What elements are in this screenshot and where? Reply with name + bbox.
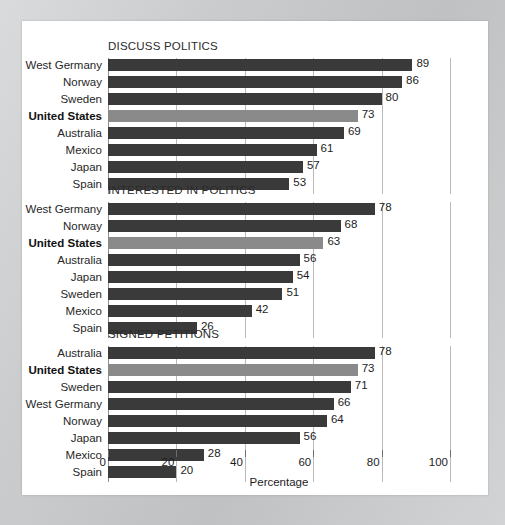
panel-title: INTERESTED IN POLITICS <box>108 184 256 196</box>
category-label: Japan <box>22 160 102 175</box>
bar <box>108 381 351 393</box>
category-label: Sweden <box>22 287 102 302</box>
category-label: West Germany <box>22 58 102 73</box>
gridline <box>450 202 451 338</box>
bar-row: 42 <box>108 304 450 319</box>
chart-card: DISCUSS POLITICSWest GermanyNorwaySweden… <box>22 21 488 495</box>
bar-value-label: 56 <box>304 430 317 442</box>
bar <box>108 398 334 410</box>
bar <box>108 364 358 376</box>
x-axis-tick-label: 100 <box>429 456 450 468</box>
panel-plot-area: 7868635654514226 <box>108 202 450 338</box>
bar <box>108 305 252 317</box>
bar-row: 66 <box>108 397 450 412</box>
bar-value-label: 42 <box>256 303 269 315</box>
bar <box>108 110 358 122</box>
x-axis-tick <box>313 450 314 457</box>
bar-row: 86 <box>108 75 450 90</box>
bar-value-label: 66 <box>338 396 351 408</box>
bar <box>108 76 402 88</box>
category-label: Japan <box>22 270 102 285</box>
bar <box>108 271 293 283</box>
bar <box>108 127 344 139</box>
bar <box>108 347 375 359</box>
category-label: United States <box>22 236 102 251</box>
bar-row: 78 <box>108 346 450 361</box>
bar-value-label: 78 <box>379 201 392 213</box>
bar-row: 63 <box>108 236 450 251</box>
bar-chart: DISCUSS POLITICSWest GermanyNorwaySweden… <box>22 21 488 495</box>
bar-value-label: 73 <box>362 362 375 374</box>
bar-row: 68 <box>108 219 450 234</box>
bar <box>108 237 323 249</box>
x-axis-tick <box>382 450 383 457</box>
panel-title: DISCUSS POLITICS <box>108 40 218 52</box>
x-axis-tick-label: 0 <box>100 456 108 468</box>
category-label: West Germany <box>22 397 102 412</box>
category-labels: AustraliaUnited StatesSwedenWest Germany… <box>22 346 102 482</box>
x-axis-title: Percentage <box>108 476 450 488</box>
x-axis-tick-label: 20 <box>162 456 177 468</box>
bar <box>108 203 375 215</box>
category-label: Australia <box>22 346 102 361</box>
bar-value-label: 57 <box>307 159 320 171</box>
bar-value-label: 73 <box>362 108 375 120</box>
bar-row: 56 <box>108 431 450 446</box>
bar-value-label: 78 <box>379 345 392 357</box>
x-axis-tick-label: 40 <box>230 456 245 468</box>
category-label: Spain <box>22 321 102 336</box>
category-label: Sweden <box>22 92 102 107</box>
x-axis: Percentage 020406080100 <box>108 450 450 494</box>
category-label: Norway <box>22 75 102 90</box>
bar-row: 73 <box>108 109 450 124</box>
category-label: Mexico <box>22 304 102 319</box>
category-label: Mexico <box>22 143 102 158</box>
category-label: Japan <box>22 431 102 446</box>
x-axis-tick-label: 60 <box>298 456 313 468</box>
bar-value-label: 89 <box>416 57 429 69</box>
bar <box>108 59 412 71</box>
category-label: Australia <box>22 126 102 141</box>
x-axis-tick <box>450 450 451 457</box>
bar-row: 56 <box>108 253 450 268</box>
bar <box>108 432 300 444</box>
category-label: Sweden <box>22 380 102 395</box>
bar-value-label: 63 <box>327 235 340 247</box>
category-label: West Germany <box>22 202 102 217</box>
x-axis-tick-label: 80 <box>367 456 382 468</box>
bar <box>108 161 303 173</box>
bar <box>108 144 317 156</box>
category-label: United States <box>22 109 102 124</box>
category-label: Mexico <box>22 448 102 463</box>
bar-value-label: 68 <box>345 218 358 230</box>
bar <box>108 254 300 266</box>
bar-row: 78 <box>108 202 450 217</box>
bar-value-label: 56 <box>304 252 317 264</box>
bar-rows: 7868635654514226 <box>108 202 450 338</box>
category-label: Australia <box>22 253 102 268</box>
bar-row: 57 <box>108 160 450 175</box>
bar-value-label: 69 <box>348 125 361 137</box>
bar-row: 80 <box>108 92 450 107</box>
bar-row: 51 <box>108 287 450 302</box>
bar-value-label: 61 <box>321 142 334 154</box>
bar-row: 61 <box>108 143 450 158</box>
bar-value-label: 53 <box>293 176 306 188</box>
bar <box>108 288 282 300</box>
bar-value-label: 71 <box>355 379 368 391</box>
bar-value-label: 51 <box>286 286 299 298</box>
category-label: Norway <box>22 219 102 234</box>
category-label: Spain <box>22 465 102 480</box>
gridline <box>450 58 451 194</box>
x-axis-tick <box>108 450 109 457</box>
bar-value-label: 64 <box>331 413 344 425</box>
category-labels: West GermanyNorwaySwedenUnited StatesAus… <box>22 58 102 194</box>
category-label: United States <box>22 363 102 378</box>
bar <box>108 220 341 232</box>
bar-row: 64 <box>108 414 450 429</box>
panel-plot-area: 8986807369615753 <box>108 58 450 194</box>
x-axis-tick <box>245 450 246 457</box>
bar-row: 89 <box>108 58 450 73</box>
bar-row: 71 <box>108 380 450 395</box>
bar <box>108 415 327 427</box>
